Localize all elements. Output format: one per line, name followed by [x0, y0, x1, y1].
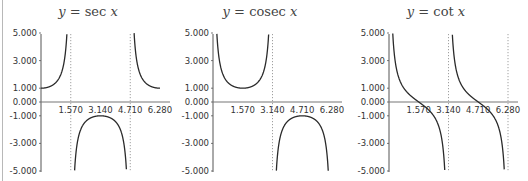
plot-area: 5.0003.0001.0000.000-1.000-3.000-5.0001.…	[348, 0, 524, 181]
chart-cot: y = cot x 5.0003.0001.0000.000-1.000-3.0…	[348, 0, 524, 181]
x-tick-label: 6.280	[320, 105, 344, 115]
y-tick-label: -5.000	[182, 166, 209, 176]
y-tick-label: 5.000	[13, 28, 37, 38]
y-tick-label: -5.000	[10, 166, 37, 176]
y-tick-label: 5.000	[185, 28, 209, 38]
plot-area: 5.0003.0001.0000.000-1.000-3.000-5.0001.…	[172, 0, 348, 181]
y-tick-label: 0.000	[185, 97, 209, 107]
plot-area: 5.0003.0001.0000.000-1.000-3.000-5.0001.…	[0, 0, 176, 181]
y-tick-label: 0.000	[13, 97, 37, 107]
y-tick-label: 3.000	[361, 56, 385, 66]
y-tick-label: 1.000	[13, 83, 37, 93]
x-tick-label: 6.280	[148, 105, 172, 115]
y-tick-label: -1.000	[182, 111, 209, 121]
y-tick-label: -5.000	[358, 166, 385, 176]
x-tick-label: 3.140	[436, 105, 460, 115]
chart-cosec: y = cosec x 5.0003.0001.0000.000-1.000-3…	[172, 0, 348, 181]
x-tick-label: 1.570	[407, 105, 431, 115]
y-tick-label: 3.000	[185, 56, 209, 66]
x-tick-label: 4.710	[466, 105, 490, 115]
y-tick-label: -1.000	[358, 111, 385, 121]
y-tick-label: 3.000	[13, 56, 37, 66]
x-tick-label: 3.140	[88, 105, 112, 115]
chart-sec: y = sec x 5.0003.0001.0000.000-1.000-3.0…	[0, 0, 176, 181]
x-tick-label: 6.280	[496, 105, 520, 115]
y-tick-label: 1.000	[185, 83, 209, 93]
x-tick-label: 1.570	[59, 105, 83, 115]
y-tick-label: 1.000	[361, 83, 385, 93]
x-tick-label: 3.140	[260, 105, 284, 115]
y-tick-label: -3.000	[358, 138, 385, 148]
y-tick-label: 0.000	[361, 97, 385, 107]
y-tick-label: 5.000	[361, 28, 385, 38]
x-tick-label: 4.710	[290, 105, 314, 115]
y-tick-label: -3.000	[182, 138, 209, 148]
y-tick-label: -1.000	[10, 111, 37, 121]
x-tick-label: 4.710	[118, 105, 142, 115]
y-tick-label: -3.000	[10, 138, 37, 148]
x-tick-label: 1.570	[231, 105, 255, 115]
